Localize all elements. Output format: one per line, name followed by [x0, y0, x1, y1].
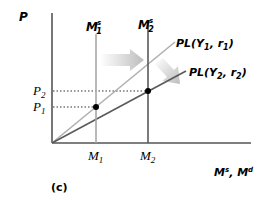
m1-supply-label: Ms1	[86, 19, 102, 36]
m2-supply-label: Ms2	[138, 17, 154, 34]
m2-tick-label: M2	[139, 148, 156, 165]
pl1-label: PL(Y1, r1)	[176, 37, 234, 52]
pl2-label: PL(Y2, r2)	[189, 66, 247, 81]
p2-label: P2	[32, 83, 46, 100]
money-market-diagram: P Ms1 Ms2 PL(Y1, r1) PL(Y2, r2) P2 P1 M1…	[0, 0, 264, 202]
y-axis-label: P	[19, 10, 28, 24]
shift-right-arrow	[100, 49, 144, 71]
x-axis-label: Ms, Md	[214, 166, 254, 179]
equilibrium-point-2	[145, 88, 151, 94]
p1-label: P1	[32, 99, 45, 116]
equilibrium-point-1	[93, 104, 99, 110]
pl2-demand-line	[52, 71, 186, 143]
m1-tick-label: M1	[87, 148, 103, 165]
panel-caption: (c)	[51, 181, 68, 194]
